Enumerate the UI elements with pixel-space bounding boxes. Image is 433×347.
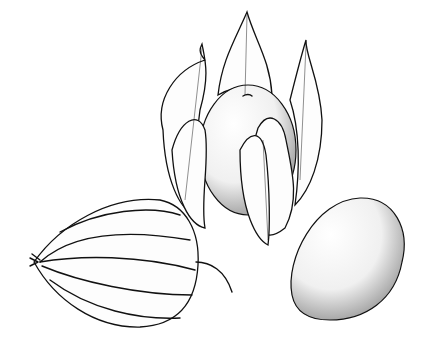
botanical-illustration: [0, 0, 433, 347]
opened-husk-with-fruit: [161, 12, 322, 245]
bare-berry: [291, 198, 404, 320]
